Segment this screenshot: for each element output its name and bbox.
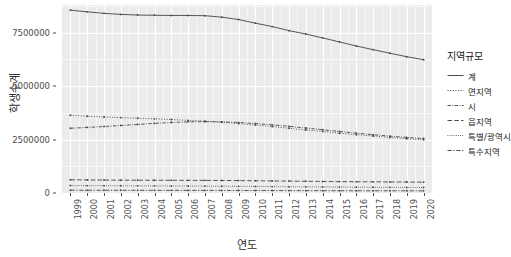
x-axis-tick-mark (104, 193, 105, 196)
x-axis-tick-mark (356, 193, 357, 196)
x-axis-tick-mark (171, 193, 172, 196)
x-axis-tick-label: 2010 (259, 199, 268, 219)
series-point (103, 179, 105, 181)
series-point (254, 190, 256, 192)
series-point (406, 190, 408, 192)
legend-item-1[interactable]: 계 (447, 68, 510, 83)
series-point (221, 180, 223, 182)
series-point (86, 179, 88, 181)
x-axis-tick-label: 2001 (107, 199, 116, 219)
series-point (154, 189, 156, 191)
series-point (254, 180, 256, 182)
series-point (355, 132, 357, 134)
x-axis-tick-mark (222, 193, 223, 196)
x-axis-tick-label: 2013 (309, 199, 318, 219)
series-line (70, 186, 423, 188)
legend-key-swatch (447, 128, 464, 143)
series-point (389, 190, 391, 192)
legend-item-4[interactable]: 읍지역 (447, 113, 510, 128)
series-point (288, 125, 290, 127)
series-point (254, 186, 256, 188)
series-point (221, 185, 223, 187)
series-point (355, 45, 357, 47)
legend-item-label: 계 (468, 70, 476, 82)
series-point (254, 22, 256, 24)
series-point (238, 180, 240, 182)
y-axis-tick-label: 5000000 (12, 81, 50, 91)
series-point (238, 122, 240, 124)
series-point (170, 179, 172, 181)
series-point (103, 12, 105, 14)
series-point (322, 186, 324, 188)
series-point (154, 14, 156, 16)
x-axis-tick-mark (424, 193, 425, 196)
x-axis-tick-mark (407, 193, 408, 196)
legend-item-3[interactable]: 시 (447, 98, 510, 113)
x-axis-tick-label: 2008 (225, 199, 234, 219)
series-point (154, 122, 156, 124)
x-axis-tick-label: 2007 (208, 199, 217, 219)
series-point (322, 129, 324, 131)
legend-item-label: 면지역 (468, 85, 492, 97)
series-point (372, 134, 374, 136)
x-axis-tick-label: 2014 (326, 199, 335, 219)
series-point (305, 180, 307, 182)
y-axis-tick-label: 7500000 (12, 28, 50, 38)
series-point (322, 131, 324, 133)
series-point (372, 186, 374, 188)
y-axis-tick-mark (53, 139, 56, 140)
series-point (204, 179, 206, 181)
series-point (103, 189, 105, 191)
series-point (137, 179, 139, 181)
series-point (305, 33, 307, 35)
y-axis-tick-mark (53, 32, 56, 33)
series-point (187, 15, 189, 17)
series-point (69, 185, 71, 187)
series-point (423, 187, 425, 189)
x-axis-tick-labels: 1999200020012002200320042005200620072008… (62, 193, 432, 237)
series-point (204, 185, 206, 187)
series-point (271, 26, 273, 28)
series-point (406, 137, 408, 139)
series-point (355, 186, 357, 188)
x-axis-tick-label: 2005 (175, 199, 184, 219)
series-point (288, 30, 290, 32)
series-point (339, 186, 341, 188)
series-point (154, 118, 156, 120)
x-axis-tick-label: 2018 (393, 199, 402, 219)
x-axis-tick-mark (138, 193, 139, 196)
legend-key-swatch (447, 83, 464, 98)
series-point (389, 52, 391, 54)
legend-item-6[interactable]: 특수지역 (447, 143, 510, 158)
series-point (339, 190, 341, 192)
x-axis-tick-label: 2003 (141, 199, 150, 219)
legend-item-5[interactable]: 특별/광역시 (447, 128, 510, 143)
series-point (137, 14, 139, 16)
x-axis-tick-label: 2009 (242, 199, 251, 219)
series-point (406, 56, 408, 58)
y-axis-tick-label: 0 (45, 188, 50, 198)
legend-item-label: 특수지역 (468, 145, 500, 157)
y-axis-tick-label: 2500000 (12, 135, 50, 145)
series-point (120, 13, 122, 15)
series-point (322, 181, 324, 183)
series-point (389, 135, 391, 137)
series-point (305, 127, 307, 129)
series-point (355, 181, 357, 183)
series-point (120, 185, 122, 187)
series-point (372, 49, 374, 51)
series-point (170, 122, 172, 124)
series-point (355, 190, 357, 192)
series-point (423, 59, 425, 61)
x-axis-tick-mark (239, 193, 240, 196)
series-point (187, 189, 189, 191)
series-point (288, 180, 290, 182)
x-axis-tick-mark (188, 193, 189, 196)
series-point (305, 186, 307, 188)
x-axis-tick-label: 2012 (292, 199, 301, 219)
series-point (271, 124, 273, 126)
legend-item-2[interactable]: 면지역 (447, 83, 510, 98)
y-axis-tick-labels: 0250000050000007500000 (0, 0, 58, 200)
series-point (288, 190, 290, 192)
series-point (339, 181, 341, 183)
